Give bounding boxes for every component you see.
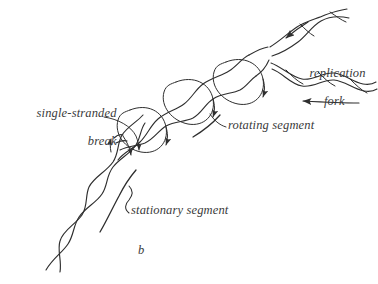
rotation-arrow-ellipse-2 xyxy=(163,79,214,124)
label-stationary-segment: stationary segment xyxy=(131,203,228,217)
label-replication-fork-line2: fork xyxy=(303,94,366,108)
label-rotating-segment: rotating segment xyxy=(228,118,314,132)
label-replication-fork: replication fork xyxy=(303,52,366,122)
rotation-arrow-ellipse-1 xyxy=(117,107,167,152)
helix-axis-connector xyxy=(249,47,269,76)
panel-label: b xyxy=(138,243,144,257)
label-single-stranded-break: single-stranded break xyxy=(30,92,117,162)
daughter-duplex-upper-strand-b xyxy=(272,17,349,56)
daughter-duplex-upper-strand-a xyxy=(270,9,347,47)
rotation-arrow-ellipse-3 xyxy=(213,59,264,104)
label-single-stranded-break-line1: single-stranded xyxy=(37,106,117,120)
label-single-stranded-break-line2: break xyxy=(30,134,117,148)
rotating-helix-strand-b xyxy=(120,76,256,150)
leader-line-stationary-segment xyxy=(100,170,136,232)
label-replication-fork-line1: replication xyxy=(310,66,366,80)
leader-line-rotating-segment xyxy=(193,114,226,137)
